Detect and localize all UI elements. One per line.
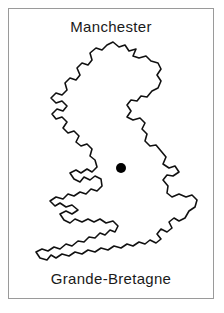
map-card: Manchester Grande-Bretagne bbox=[8, 8, 214, 299]
map-figure bbox=[9, 39, 214, 267]
manchester-city-marker bbox=[116, 163, 126, 173]
page-title: Manchester bbox=[9, 18, 213, 35]
map-caption: Grande-Bretagne bbox=[9, 270, 213, 287]
great-britain-map bbox=[9, 39, 214, 267]
great-britain-coastline-path bbox=[36, 42, 197, 260]
